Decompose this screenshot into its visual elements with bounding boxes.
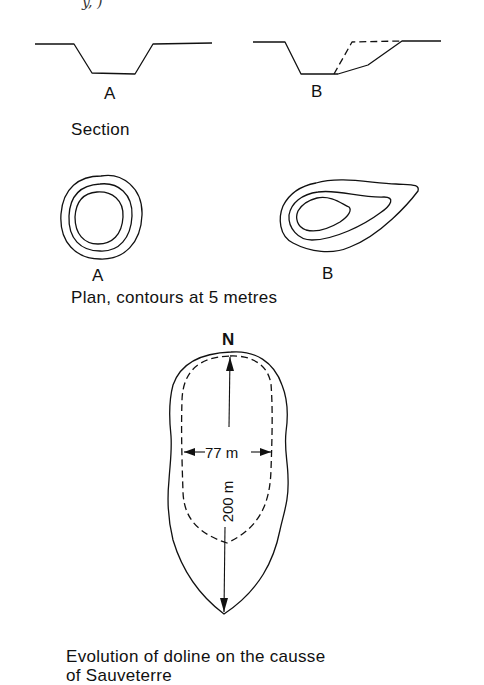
figure-caption: Evolution of doline on the causse	[66, 647, 325, 667]
figure-caption-line2: of Sauveterre	[66, 666, 172, 685]
plan-a-contour-inner	[75, 192, 123, 244]
east-arrowhead-icon	[260, 448, 271, 456]
section-b-profile	[253, 41, 441, 74]
south-arrowhead-icon	[220, 598, 228, 612]
plan-a-contour-outer	[61, 175, 142, 259]
plan-b-label: B	[322, 264, 333, 284]
section-caption: Section	[71, 120, 130, 140]
section-b-original-profile	[334, 41, 402, 74]
plan-b-contour-outer	[280, 180, 418, 252]
north-arrowhead-icon	[226, 357, 234, 371]
plan-caption: Plan, contours at 5 metres	[71, 288, 277, 308]
width-label: 77 m	[205, 444, 238, 461]
north-label: N	[222, 330, 234, 350]
section-b-label: B	[311, 82, 322, 102]
plan-a-label: A	[92, 266, 103, 286]
length-label: 200 m	[219, 481, 236, 523]
section-a-profile	[35, 43, 212, 74]
section-a-label: A	[104, 84, 115, 104]
west-arrowhead-icon	[184, 448, 195, 456]
plan-b-contour-inner	[297, 197, 350, 231]
